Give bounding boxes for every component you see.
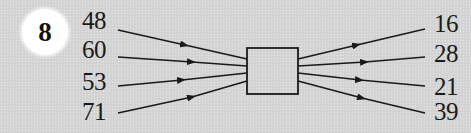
- input-arrow-1: [118, 30, 247, 59]
- input-arrows: [118, 30, 247, 113]
- output-arrow-3: [298, 73, 425, 86]
- input-arrow-2: [118, 57, 247, 66]
- input-arrow-3: [118, 73, 247, 86]
- output-arrow-1: [298, 29, 425, 59]
- function-machine-diagram: [0, 0, 471, 133]
- diagram-canvas: 8 48 60 53 71 16 28 21 39: [0, 0, 471, 133]
- function-box: [247, 48, 298, 94]
- input-arrow-4: [118, 81, 247, 113]
- output-arrows: [298, 29, 425, 113]
- output-arrow-2: [298, 57, 425, 66]
- output-arrow-4: [298, 81, 425, 113]
